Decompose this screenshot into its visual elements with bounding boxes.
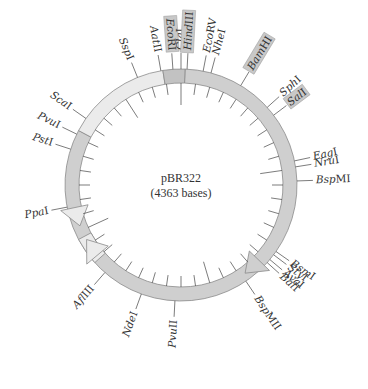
- tick-mark: [114, 108, 121, 116]
- svg-text:PpaI: PpaI: [22, 204, 49, 221]
- tick-mark: [207, 87, 210, 98]
- tick-mark: [152, 272, 155, 283]
- tick-mark: [230, 262, 236, 271]
- tick-mark: [166, 84, 168, 95]
- svg-text:NdeI: NdeI: [119, 309, 140, 339]
- tick-mark: [268, 211, 279, 214]
- tick-mark: [258, 234, 267, 240]
- tick-mark: [88, 218, 108, 227]
- svg-text:SspI: SspI: [117, 35, 137, 61]
- tick-mark: [95, 130, 104, 136]
- tick-mark: [204, 262, 210, 283]
- svg-text:ScaI: ScaI: [48, 88, 74, 111]
- tick-mark: [166, 275, 168, 286]
- site-scai: ScaI: [48, 88, 86, 118]
- site-sspi: SspI: [117, 35, 138, 77]
- tick-mark: [219, 92, 224, 102]
- svg-text:AflIII: AflIII: [69, 282, 96, 311]
- site-ppai: PpaI: [22, 204, 67, 221]
- tick-mark: [258, 130, 267, 136]
- tick-mark: [83, 156, 94, 159]
- tick-mark: [219, 268, 224, 278]
- svg-text:BspMII: BspMII: [252, 292, 284, 332]
- site-bspmi: BspMI: [297, 172, 351, 185]
- amp-resistance-gene: [79, 70, 165, 137]
- svg-text:BspMI: BspMI: [315, 172, 351, 185]
- svg-text:HindIII: HindIII: [181, 11, 195, 51]
- site-psti: PstI: [31, 130, 71, 149]
- tick-mark: [126, 262, 132, 271]
- site-bspmii: BspMII: [246, 281, 284, 332]
- tick-mark: [194, 84, 196, 95]
- site-aatii: AatII: [148, 24, 165, 71]
- tick-mark: [250, 118, 258, 125]
- site-hindiii: HindIII: [180, 10, 195, 69]
- tick-mark: [268, 156, 279, 159]
- tick-mark: [139, 92, 144, 102]
- svg-text:PvuI: PvuI: [35, 109, 63, 131]
- tick-mark: [88, 143, 98, 148]
- tick-mark: [194, 275, 196, 286]
- tick-mark: [152, 87, 155, 98]
- svg-text:PstI: PstI: [31, 130, 55, 148]
- tick-mark: [230, 99, 236, 108]
- site-pvui: PvuI: [35, 109, 77, 135]
- site-ndei: NdeI: [119, 294, 141, 339]
- tick-mark: [271, 198, 282, 200]
- plasmid-ring: [61, 69, 297, 301]
- svg-text:PvuII: PvuII: [165, 319, 179, 349]
- tick-mark: [264, 143, 274, 148]
- ori-block: [163, 69, 185, 84]
- tick-mark: [139, 268, 144, 278]
- tick-mark: [250, 245, 258, 252]
- site-pvuii: PvuII: [165, 301, 179, 349]
- tick-mark: [260, 170, 282, 173]
- site-afliii: AflIII: [69, 273, 105, 312]
- tick-mark: [126, 99, 138, 118]
- plasmid-map: SspIAatIIEcoRIClaIHindIIIEcoRVNheIBamHIS…: [0, 0, 368, 389]
- site-nrui: NruI: [296, 153, 340, 169]
- svg-text:AatII: AatII: [148, 24, 165, 53]
- tick-mark: [264, 223, 274, 228]
- tick-mark: [95, 234, 104, 240]
- tick-mark: [80, 198, 91, 200]
- plasmid-name: pBR322: [161, 171, 201, 185]
- svg-text:BamHI: BamHI: [244, 34, 274, 73]
- site-bamhi: BamHI: [241, 32, 275, 85]
- tick-mark: [80, 170, 91, 172]
- plasmid-size: (4363 bases): [151, 186, 212, 200]
- tick-mark: [241, 108, 248, 116]
- tick-mark: [104, 118, 112, 125]
- tick-mark: [114, 254, 121, 262]
- tick-mark: [241, 254, 248, 262]
